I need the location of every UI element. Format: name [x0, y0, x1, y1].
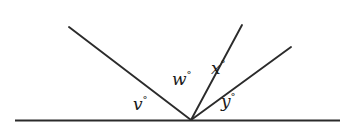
angle-label-w-letter: w: [172, 69, 187, 89]
angle-label-v-letter: v: [133, 94, 143, 114]
angle-label-y: y°: [221, 92, 236, 110]
degree-symbol-w: °: [187, 69, 192, 80]
angle-label-w: w°: [172, 70, 192, 88]
angle-label-v: v°: [133, 95, 148, 113]
ray-shallow-up-right: [191, 47, 291, 120]
angle-diagram-figure: v° w° x° y°: [0, 0, 350, 132]
geometry-canvas: [0, 0, 350, 132]
angle-label-x: x°: [211, 59, 226, 77]
angle-label-x-letter: x: [211, 58, 221, 78]
angle-label-y-letter: y: [221, 91, 231, 111]
degree-symbol-y: °: [231, 91, 236, 102]
degree-symbol-v: °: [143, 94, 148, 105]
degree-symbol-x: °: [221, 58, 226, 69]
